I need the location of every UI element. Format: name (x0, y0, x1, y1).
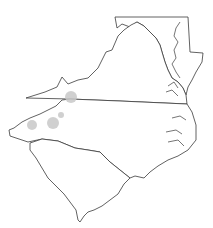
range-map (0, 0, 213, 228)
map-svg (0, 0, 213, 228)
occurrence-dot (58, 112, 64, 118)
occurrence-dot (65, 91, 77, 103)
occurrence-dot (27, 120, 37, 130)
occurrence-dot (47, 117, 59, 129)
